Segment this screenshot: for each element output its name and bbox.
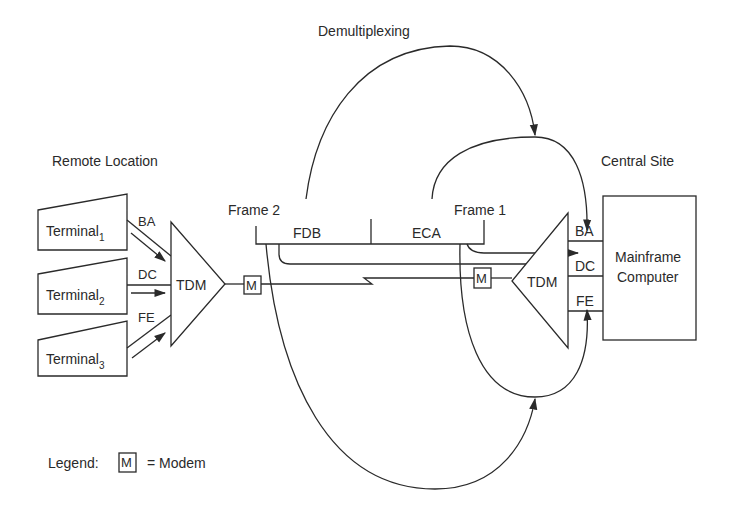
demux-arc-outer-bottom [266, 244, 535, 489]
frame-2-label: Frame 2 [228, 202, 280, 218]
terminal-2: Terminal2 [38, 258, 127, 314]
segment-fdb: FDB [293, 225, 321, 241]
remote-location-label: Remote Location [52, 153, 158, 169]
svg-text:M: M [246, 278, 257, 293]
frame-bar: Frame 2 Frame 1 FDB ECA [228, 202, 506, 244]
segment-eca: ECA [412, 225, 441, 241]
remote-modem: M [244, 276, 261, 294]
tdm-demultiplexing-diagram: Demultiplexing Remote Location Terminal1… [0, 0, 735, 510]
svg-text:Computer: Computer [617, 269, 679, 285]
central-ports: BA DC FE [568, 223, 603, 311]
diagram-title: Demultiplexing [318, 23, 410, 39]
svg-text:= Modem: = Modem [147, 455, 206, 471]
channel-label-dc: DC [138, 267, 157, 282]
demux-arc-outer-top [306, 46, 535, 199]
central-tdm-demultiplexer: TDM [512, 213, 568, 348]
route-fdb-dc [279, 244, 547, 264]
remote-tdm-multiplexer: TDM [171, 222, 225, 346]
port-dc: DC [575, 258, 595, 274]
terminal-3: Terminal3 [38, 321, 127, 376]
central-site-label: Central Site [601, 153, 674, 169]
channel-label-fe: FE [138, 310, 155, 325]
remote-channels: BA DC FE [127, 214, 171, 358]
svg-text:M: M [476, 271, 487, 286]
svg-text:TDM: TDM [176, 277, 206, 293]
terminal-1: Terminal1 [38, 194, 127, 250]
svg-text:TDM: TDM [527, 274, 557, 290]
central-modem: M [474, 268, 491, 288]
legend: Legend: M = Modem [48, 453, 206, 472]
port-fe: FE [576, 293, 594, 309]
mainframe-computer: Mainframe Computer [603, 196, 696, 340]
svg-text:M: M [121, 455, 132, 470]
svg-text:Legend:: Legend: [48, 455, 99, 471]
svg-text:Mainframe: Mainframe [615, 249, 681, 265]
transmission-line [261, 278, 474, 284]
port-ba: BA [575, 223, 594, 239]
frame-1-label: Frame 1 [454, 202, 506, 218]
channel-label-ba: BA [138, 214, 156, 229]
